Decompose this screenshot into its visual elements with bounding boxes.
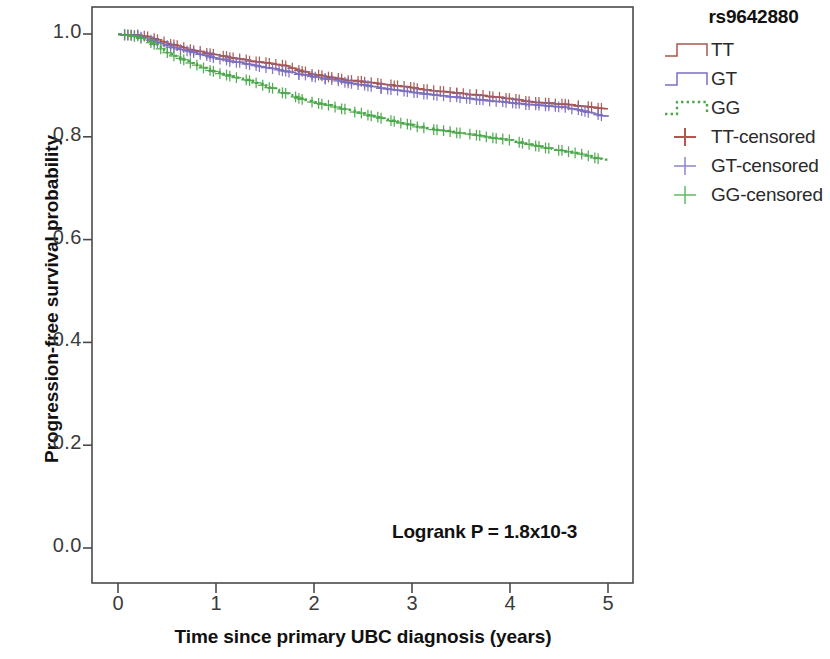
logrank-annotation: Logrank P = 1.8x10-3 [392,521,577,543]
legend: rs9642880 TTGTGGTT-censoredGT-censoredGG… [663,6,830,209]
legend-title: rs9642880 [663,6,830,28]
curve-line-tt [118,34,608,109]
legend-item-label: GT-censored [711,155,819,177]
censor-markers-gt [120,30,607,121]
legend-item-label: TT [711,39,734,61]
plus-marker-icon [663,124,711,150]
curve-tt [118,29,608,113]
plot-frame [92,7,633,583]
legend-item-gg-censored[interactable]: GG-censored [663,180,830,209]
survival-chart-figure: Progression-free survival probability Ti… [0,0,830,659]
step-line-icon [663,37,711,63]
legend-items: TTGTGGTT-censoredGT-censoredGG-censored [663,35,830,209]
legend-item-gg[interactable]: GG [663,93,830,122]
legend-item-tt[interactable]: TT [663,35,830,64]
legend-item-tt-censored[interactable]: TT-censored [663,122,830,151]
dotted-step-line-icon [663,95,711,121]
legend-item-label: TT-censored [711,126,815,148]
plus-marker-icon [663,153,711,179]
legend-item-gt-censored[interactable]: GT-censored [663,151,830,180]
curve-line-gg [118,34,608,160]
plus-marker-icon [663,182,711,208]
step-line-icon [663,66,711,92]
legend-item-gt[interactable]: GT [663,64,830,93]
legend-item-label: GT [711,68,737,90]
axis-ticks [83,34,608,593]
curve-gt [118,30,608,121]
censor-markers-tt [120,29,607,113]
survival-curves [118,29,608,164]
legend-item-label: GG [711,97,740,119]
legend-item-label: GG-censored [711,184,823,206]
